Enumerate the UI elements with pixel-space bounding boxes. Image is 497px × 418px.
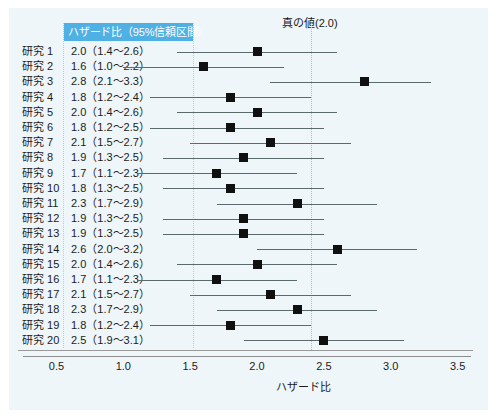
study-label: 研究 15 (22, 257, 62, 272)
table-row: 研究 161.7（1.1〜2.3） (0, 272, 497, 287)
forest-plot-figure: ハザード比（95%信頼区間） 研究 12.0（1.4〜2.6）研究 21.6（1… (0, 0, 497, 418)
study-label: 研究 11 (22, 196, 62, 211)
hazard-ratio-value: 1.7（1.1〜2.3） (71, 166, 191, 181)
hazard-ratio-value: 2.1（1.5〜2.7） (71, 135, 191, 150)
table-row: 研究 191.8（1.2〜2.4） (0, 318, 497, 333)
hazard-ratio-value: 2.0（1.4〜2.6） (71, 105, 191, 120)
hazard-ratio-value: 2.6（2.0〜3.2） (71, 242, 191, 257)
table-row: 研究 202.5（1.9〜3.1） (0, 333, 497, 348)
study-label: 研究 10 (22, 181, 62, 196)
table-row: 研究 121.9（1.3〜2.5） (0, 211, 497, 226)
table-row: 研究 61.8（1.2〜2.5） (0, 120, 497, 135)
study-label: 研究 17 (22, 287, 62, 302)
table-row: 研究 152.0（1.4〜2.6） (0, 257, 497, 272)
table-row: 研究 172.1（1.5〜2.7） (0, 287, 497, 302)
study-label: 研究 18 (22, 302, 62, 317)
hazard-ratio-value: 2.8（2.1〜3.3） (71, 74, 191, 89)
x-tick-label: 3.5 (438, 360, 478, 372)
hazard-ratio-value: 2.5（1.9〜3.1） (71, 333, 191, 348)
study-label: 研究 1 (22, 44, 62, 59)
x-tick-label: 1.5 (170, 360, 210, 372)
x-tick-label: 2.5 (304, 360, 344, 372)
table-row: 研究 131.9（1.3〜2.5） (0, 226, 497, 241)
table-row: 研究 112.3（1.7〜2.9） (0, 196, 497, 211)
x-axis-title: ハザード比 (0, 378, 497, 394)
table-row: 研究 72.1（1.5〜2.7） (0, 135, 497, 150)
hazard-ratio-value: 1.8（1.2〜2.5） (71, 120, 191, 135)
study-label: 研究 5 (22, 105, 62, 120)
study-label: 研究 6 (22, 120, 62, 135)
hazard-ratio-value: 1.6（1.0〜2.2） (71, 59, 191, 74)
study-label: 研究 14 (22, 242, 62, 257)
table-row: 研究 91.7（1.1〜2.3） (0, 166, 497, 181)
table-row: 研究 41.8（1.2〜2.4） (0, 90, 497, 105)
hazard-ratio-value: 1.7（1.1〜2.3） (71, 272, 191, 287)
x-axis-title-text: ハザード比 (276, 381, 331, 393)
hazard-ratio-value: 2.0（1.4〜2.6） (71, 257, 191, 272)
hazard-ratio-value: 1.9（1.3〜2.5） (71, 211, 191, 226)
study-label: 研究 16 (22, 272, 62, 287)
study-label: 研究 7 (22, 135, 62, 150)
table-row: 研究 32.8（2.1〜3.3） (0, 74, 497, 89)
study-label: 研究 3 (22, 74, 62, 89)
x-axis-line (23, 356, 471, 357)
study-label: 研究 19 (22, 318, 62, 333)
x-tick-label: 3.0 (371, 360, 411, 372)
table-bottom-rule (18, 350, 473, 351)
table-row: 研究 142.6（2.0〜3.2） (0, 242, 497, 257)
table-row: 研究 21.6（1.0〜2.2） (0, 59, 497, 74)
hazard-ratio-value: 1.9（1.3〜2.5） (71, 226, 191, 241)
study-label: 研究 8 (22, 150, 62, 165)
hazard-ratio-value: 1.9（1.3〜2.5） (71, 150, 191, 165)
hazard-ratio-value: 2.3（1.7〜2.9） (71, 196, 191, 211)
table-row: 研究 81.9（1.3〜2.5） (0, 150, 497, 165)
hazard-ratio-value: 2.3（1.7〜2.9） (71, 302, 191, 317)
study-label: 研究 12 (22, 211, 62, 226)
hazard-ratio-value: 1.8（1.3〜2.5） (71, 181, 191, 196)
x-tick-label: 1.0 (103, 360, 143, 372)
study-label: 研究 20 (22, 333, 62, 348)
table-row: 研究 52.0（1.4〜2.6） (0, 105, 497, 120)
hazard-ratio-value: 1.8（1.2〜2.4） (71, 318, 191, 333)
x-tick-label: 2.0 (237, 360, 277, 372)
study-label: 研究 13 (22, 226, 62, 241)
x-tick-label: 0.5 (36, 360, 76, 372)
study-label: 研究 4 (22, 90, 62, 105)
table-row: 研究 101.8（1.3〜2.5） (0, 181, 497, 196)
hazard-ratio-value: 1.8（1.2〜2.4） (71, 90, 191, 105)
hazard-ratio-value: 2.1（1.5〜2.7） (71, 287, 191, 302)
table-row: 研究 182.3（1.7〜2.9） (0, 302, 497, 317)
study-label: 研究 2 (22, 59, 62, 74)
study-label: 研究 9 (22, 166, 62, 181)
table-row: 研究 12.0（1.4〜2.6） (0, 44, 497, 59)
hazard-ratio-value: 2.0（1.4〜2.6） (71, 44, 191, 59)
